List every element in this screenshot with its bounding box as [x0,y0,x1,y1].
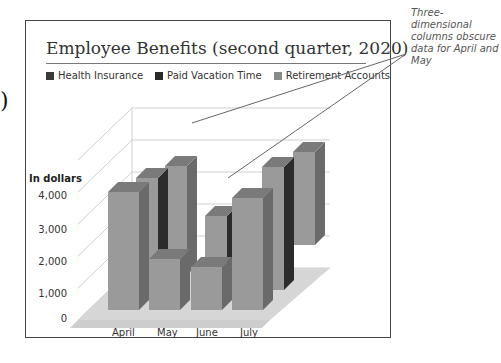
y-tick: 4,000 [27,190,67,201]
y-tick: 3,000 [27,224,67,235]
annotation-note: Three-dimensional columns obscure data f… [411,7,501,67]
x-tick: July [240,327,258,338]
x-tick: April [112,327,135,338]
y-tick: 0 [27,313,67,324]
x-tick: June [196,327,218,338]
y-tick: 2,000 [27,256,67,267]
x-tick: May [157,327,178,338]
y-axis-label: In dollars [29,173,82,184]
y-tick: 1,000 [27,288,67,299]
